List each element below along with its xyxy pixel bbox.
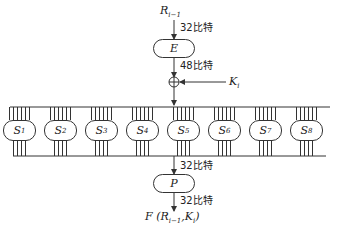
bits-label-input: 32比特 <box>180 23 213 33</box>
bits-label-p: 32比特 <box>180 196 213 206</box>
sbox-7: S7 <box>249 120 282 141</box>
sbox-index: 6 <box>226 127 230 135</box>
sbox-6: S6 <box>208 120 241 141</box>
sbox-symbol: S <box>95 124 103 137</box>
sbox-index: 2 <box>62 127 66 135</box>
input-r-label: Ri−1 <box>160 5 181 19</box>
sbox-symbol: S <box>300 124 308 137</box>
sbox-5: S5 <box>167 120 200 141</box>
sbox-index: 5 <box>185 127 189 135</box>
expansion-e-box: E <box>153 39 195 58</box>
sbox-index: 3 <box>103 127 107 135</box>
sbox-2: S2 <box>44 120 77 141</box>
output-f-label: F (Ri−1,Ki) <box>145 211 200 225</box>
sbox-symbol: S <box>13 124 21 137</box>
sbox-4: S4 <box>126 120 159 141</box>
sbox-index: 7 <box>267 127 271 135</box>
sbox-symbol: S <box>177 124 185 137</box>
sbox-index: 1 <box>21 127 25 135</box>
permutation-p-box: P <box>153 174 195 193</box>
sbox-1: S1 <box>3 120 36 141</box>
sbox-3: S3 <box>85 120 118 141</box>
sbox-symbol: S <box>54 124 62 137</box>
sbox-symbol: S <box>136 124 144 137</box>
bits-label-e: 48比特 <box>180 61 213 71</box>
sbox-8: S8 <box>290 120 323 141</box>
sbox-symbol: S <box>259 124 267 137</box>
bits-label-sbox: 32比特 <box>180 161 213 171</box>
sbox-index: 4 <box>144 127 148 135</box>
sbox-index: 8 <box>308 127 312 135</box>
key-k-label: Ki <box>229 76 239 90</box>
sbox-symbol: S <box>218 124 226 137</box>
